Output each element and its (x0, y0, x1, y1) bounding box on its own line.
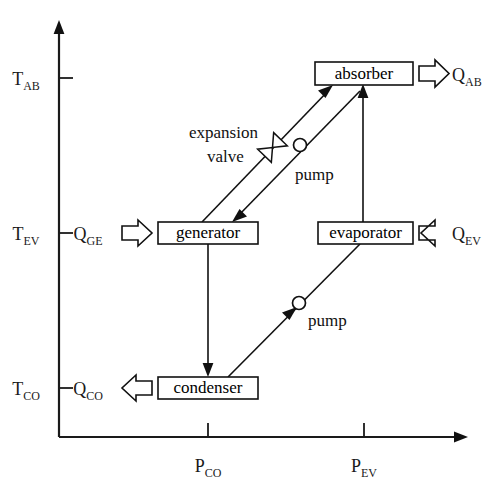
y-tick-label-t-ab-sub: AB (23, 79, 40, 93)
y-tick-label-t-ev-base: T (13, 224, 24, 244)
svg-text:TEV: TEV (13, 224, 40, 248)
x-axis-tick-p-co: PCO (195, 423, 222, 480)
x-tick-label-p-co-sub: CO (205, 466, 222, 480)
component-absorber[interactable]: absorber (315, 62, 413, 85)
y-tick-label-t-co-sub: CO (23, 389, 40, 403)
component-condenser[interactable]: condenser (158, 377, 258, 399)
diagram-canvas: TAB TEV TCO PCO PEV (0, 0, 491, 493)
component-label-evaporator: evaporator (329, 223, 402, 242)
annotation-expansion-valve-line2: valve (207, 147, 244, 166)
svg-text:PEV: PEV (351, 456, 377, 480)
x-axis (59, 432, 468, 443)
heat-flow-q-ab: QAB (419, 60, 482, 89)
heat-flow-label-q-ev: QEV (452, 224, 481, 248)
pump-upper-icon (294, 139, 307, 152)
annotation-expansion-valve: expansion valve (189, 123, 258, 166)
annotation-pump-upper: pump (295, 165, 334, 184)
heat-flow-label-q-co: QCO (73, 379, 103, 403)
heat-flow-q-ge: QGE (74, 220, 153, 248)
annotation-expansion-valve-line1: expansion (189, 123, 258, 142)
heat-flow-label-q-ab: QAB (452, 65, 482, 89)
x-tick-label-p-ev-base: P (351, 456, 361, 476)
annotation-pump-lower: pump (308, 311, 347, 330)
y-tick-label-t-ev-sub: EV (24, 234, 40, 248)
component-evaporator[interactable]: evaporator (318, 222, 413, 244)
x-tick-label-p-co-base: P (195, 456, 205, 476)
svg-text:TAB: TAB (12, 69, 40, 93)
svg-text:PCO: PCO (195, 456, 222, 480)
component-label-absorber: absorber (335, 64, 394, 83)
pump-lower-icon (293, 297, 306, 310)
connection-evaporator-to-absorber (358, 84, 369, 222)
absorption-cycle-diagram: TAB TEV TCO PCO PEV (0, 0, 491, 493)
connection-absorber-to-generator (232, 91, 360, 222)
y-tick-label-t-ab-base: T (12, 69, 23, 89)
x-axis-tick-p-ev: PEV (351, 423, 377, 480)
x-tick-label-p-ev-sub: EV (361, 466, 377, 480)
y-axis-tick-t-ab: TAB (12, 69, 73, 93)
component-label-generator: generator (176, 223, 241, 242)
y-axis-tick-t-ev: TEV (13, 224, 74, 248)
y-axis-tick-t-co: TCO (12, 379, 73, 403)
component-generator[interactable]: generator (158, 222, 258, 244)
heat-flow-q-ev: QEV (419, 220, 481, 248)
y-axis (54, 20, 65, 437)
component-label-condenser: condenser (174, 378, 243, 397)
y-tick-label-t-co-base: T (12, 379, 23, 399)
heat-flow-q-co: QCO (73, 375, 152, 403)
heat-flow-label-q-ge: QGE (74, 224, 103, 248)
svg-text:TCO: TCO (12, 379, 40, 403)
connection-generator-to-condenser (203, 244, 214, 377)
